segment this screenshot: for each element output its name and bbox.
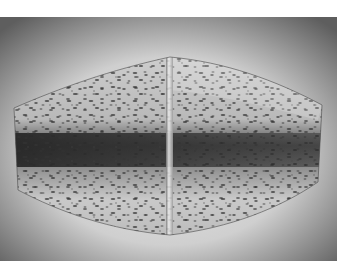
artifact-photo-svg bbox=[0, 17, 337, 261]
central-ridge bbox=[166, 55, 173, 237]
artifact-photo bbox=[0, 17, 337, 261]
